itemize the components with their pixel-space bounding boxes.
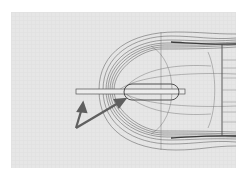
- rod[interactable]: [76, 89, 185, 94]
- wireframe-drawing: [11, 12, 236, 168]
- cad-viewport[interactable]: [11, 12, 236, 168]
